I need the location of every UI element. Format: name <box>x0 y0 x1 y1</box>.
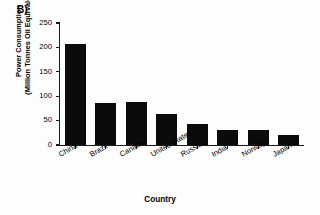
bar-india <box>217 130 238 145</box>
y-axis-title: Power Consumption (Million Tonnes Oil Eq… <box>12 0 34 106</box>
y-axis-tick-label: 200 <box>39 43 52 51</box>
y-axis-tick-label: 250 <box>39 19 52 27</box>
y-axis-tick-label: 100 <box>39 92 52 100</box>
y-axis-tick <box>56 22 60 23</box>
bar-series <box>60 23 304 145</box>
y-axis-tick-label: 150 <box>39 68 52 76</box>
y-axis-tick <box>56 96 60 97</box>
y-axis-tick <box>56 47 60 48</box>
x-axis-title: Country <box>0 195 320 204</box>
y-axis-tick <box>56 71 60 72</box>
bar-china <box>65 44 86 145</box>
y-axis-tick <box>56 120 60 121</box>
bar-canada <box>126 102 147 145</box>
y-axis-tick <box>56 144 60 145</box>
bar-brazil <box>95 103 116 145</box>
y-axis-title-line2: (Million Tonnes Oil Equivalent) <box>23 0 32 95</box>
y-axis-tick-label: 50 <box>44 116 52 124</box>
y-axis-tick-label: 0 <box>48 141 52 149</box>
y-axis-title-line1: Power Consumption <box>14 5 23 77</box>
chart-figure: B) Power Consumption (Million Tonnes Oil… <box>0 0 320 215</box>
